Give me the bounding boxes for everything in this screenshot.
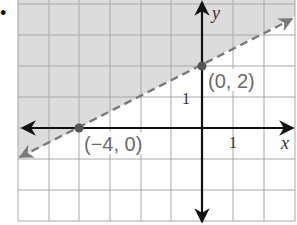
point-label-0-2: (0, 2): [208, 70, 255, 92]
y-axis-label: y: [210, 3, 220, 23]
coordinate-graph: (0, 2) (−4, 0) 1 1 x y: [0, 0, 297, 225]
y-tick-label: 1: [182, 90, 190, 107]
point-neg4-0: [75, 124, 84, 133]
x-axis-label: x: [280, 133, 289, 153]
point-label-neg4-0: (−4, 0): [84, 133, 142, 155]
point-0-2: [198, 62, 207, 71]
x-tick-label: 1: [229, 134, 237, 151]
